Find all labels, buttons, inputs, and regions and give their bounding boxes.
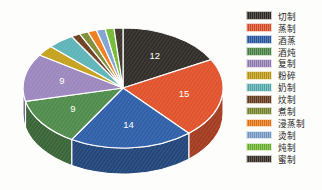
legend-label: 浸蒸制 [278,117,306,129]
pie-slice-value-label: 1 [81,22,85,28]
pie-slice-value-label: 9 [70,103,75,114]
pie-slice-value-label: 1 [99,19,103,25]
legend-color-swatch [246,119,272,128]
legend-color-swatch [246,11,272,20]
pie-slices [23,28,223,148]
legend-item[interactable]: 蜜制 [246,153,318,164]
legend-color-swatch [246,71,272,80]
legend-color-swatch [246,95,272,104]
legend-item[interactable]: 酒炖 [246,46,318,57]
pie-slice-value-label: 9 [59,75,64,86]
legend-label: 炖制 [278,141,296,153]
legend-label: 蜜制 [278,153,296,165]
pie-chart-page: 1215149923111111 切制蒸制酒蒸酒炖复制粉碎奶制炆制煮制浸蒸制烫制… [0,0,322,190]
pie-chart: 1215149923111111 [14,14,232,174]
pie-slice-value-label: 3 [58,31,62,37]
pie-slice-value-label: 15 [179,88,190,99]
legend-item[interactable]: 烫制 [246,129,318,140]
legend-color-swatch [246,83,272,92]
legend-item[interactable]: 炆制 [246,94,318,105]
legend-label: 酒炖 [278,46,296,58]
legend-item[interactable]: 粉碎 [246,70,318,81]
legend-label: 切制 [278,10,296,22]
pie-slice-value-label: 12 [150,50,161,61]
pie-chart-svg: 1215149923111111 [14,14,232,174]
chart-area: 1215149923111111 [0,0,246,190]
legend-item[interactable]: 蒸制 [246,22,318,33]
legend-label: 炆制 [278,93,296,105]
legend-item[interactable]: 复制 [246,58,318,69]
legend-color-swatch [246,143,272,152]
legend-color-swatch [246,155,272,164]
legend-item[interactable]: 炖制 [246,141,318,152]
legend-item[interactable]: 奶制 [246,82,318,93]
legend-color-swatch [246,35,272,44]
legend-label: 烫制 [278,129,296,141]
legend-color-swatch [246,107,272,116]
chart-legend: 切制蒸制酒蒸酒炖复制粉碎奶制炆制煮制浸蒸制烫制炖制蜜制 [246,10,318,165]
pie-slice-value-label: 1 [108,18,112,24]
legend-item[interactable]: 酒蒸 [246,34,318,45]
pie-slice-value-label: 1 [117,17,121,23]
legend-label: 奶制 [278,81,296,93]
legend-color-swatch [246,47,272,56]
pie-slice-value-label: 1 [90,20,94,26]
pie-slice-value-label: 2 [42,40,46,46]
legend-item[interactable]: 煮制 [246,106,318,117]
legend-color-swatch [246,23,272,32]
legend-label: 蒸制 [278,22,296,34]
legend-label: 粉碎 [278,69,296,81]
legend-label: 煮制 [278,105,296,117]
legend-label: 酒蒸 [278,34,296,46]
legend-item[interactable]: 浸蒸制 [246,117,318,128]
legend-color-swatch [246,59,272,68]
legend-item[interactable]: 切制 [246,10,318,21]
legend-color-swatch [246,131,272,140]
pie-slice-value-label: 1 [73,25,77,31]
legend-label: 复制 [278,57,296,69]
pie-slice-value-label: 14 [123,119,134,130]
